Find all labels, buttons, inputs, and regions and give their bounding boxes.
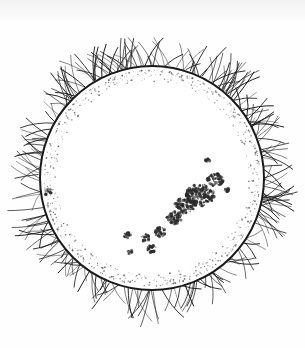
facula-dot (83, 261, 84, 262)
facula-dot (54, 223, 56, 225)
facula-dot (56, 158, 58, 160)
sunspot-dot (204, 184, 205, 185)
facula-dot (258, 185, 259, 186)
facula-dot (117, 274, 119, 276)
sunspot-dot (49, 191, 53, 195)
facula-dot (161, 71, 162, 72)
sunspot-dot (128, 231, 130, 233)
sunspot-dot (173, 222, 177, 226)
facula-dot (178, 85, 179, 86)
facula-dot (254, 144, 255, 145)
facula-dot (75, 248, 76, 249)
prominence-stroke (17, 151, 41, 170)
sunspot-dot (189, 211, 191, 213)
facula-dot (137, 278, 138, 279)
sunspot-dot (204, 187, 205, 188)
facula-dot (250, 165, 252, 167)
facula-dot (211, 91, 212, 92)
facula-dot (130, 281, 131, 282)
prominence-stroke (93, 281, 107, 298)
sunspot-dot (217, 178, 220, 181)
facula-dot (244, 224, 245, 225)
sunspot-dot (219, 175, 222, 178)
facula-dot (126, 76, 127, 77)
facula-dot (141, 70, 143, 72)
facula-dot (250, 220, 252, 222)
prominence-stroke (214, 273, 231, 282)
facula-dot (182, 80, 184, 82)
facula-dot (66, 122, 67, 123)
facula-dot (238, 220, 239, 221)
facula-dot (77, 102, 78, 103)
facula-dot (258, 158, 259, 159)
facula-dot (70, 110, 71, 111)
facula-dot (233, 116, 235, 118)
facula-dot (170, 281, 171, 282)
facula-dot (203, 83, 205, 85)
facula-dot (244, 125, 245, 126)
facula-dot (51, 157, 52, 158)
facula-dot (250, 134, 252, 136)
facula-dot (112, 79, 113, 80)
facula-dot (47, 186, 48, 187)
facula-dot (50, 195, 51, 196)
facula-dot (114, 77, 115, 78)
facula-dot (139, 70, 140, 71)
facula-dot (215, 92, 216, 93)
facula-dot (248, 226, 249, 227)
prominence-stroke (20, 123, 54, 128)
facula-dot (208, 88, 209, 89)
facula-dot (144, 72, 145, 73)
facula-dot (111, 276, 112, 277)
sunspot-dot (202, 186, 203, 187)
facula-dot (94, 259, 95, 260)
sunspot-dot (177, 221, 179, 223)
facula-dot (69, 247, 71, 249)
facula-dot (217, 260, 218, 261)
prominence-stroke (264, 165, 292, 178)
facula-dot (245, 123, 246, 124)
sunspot-dot (170, 218, 174, 222)
facula-dot (171, 284, 172, 285)
facula-dot (98, 86, 99, 87)
facula-dot (145, 277, 146, 278)
facula-dot (198, 90, 199, 91)
facula-dot (251, 215, 252, 216)
sunspot-dot (147, 238, 150, 241)
facula-dot (248, 217, 249, 218)
facula-dot (68, 110, 69, 111)
facula-dot (234, 109, 236, 111)
sunspot-dot (181, 209, 183, 211)
facula-dot (167, 282, 168, 283)
facula-dot (78, 256, 80, 258)
facula-dot (55, 150, 56, 151)
facula-dot (115, 278, 116, 279)
facula-dot (54, 208, 55, 209)
sunspot-dot (185, 204, 186, 205)
sunspot-dot (149, 245, 152, 248)
facula-dot (251, 136, 252, 137)
prominence-stroke (192, 46, 207, 72)
facula-dot (98, 94, 100, 96)
facula-dot (198, 262, 200, 264)
facula-dot (186, 78, 187, 79)
sunspot-dot (157, 234, 160, 237)
facula-dot (249, 181, 250, 182)
facula-dot (188, 82, 189, 83)
facula-dot (60, 235, 61, 236)
facula-dot (179, 76, 181, 78)
facula-dot (78, 249, 79, 250)
facula-dot (59, 205, 60, 206)
facula-dot (148, 284, 150, 286)
prominence-stroke (264, 166, 272, 181)
facula-dot (241, 235, 242, 236)
sunspot-dot (168, 214, 170, 216)
facula-dot (219, 108, 220, 109)
facula-dot (98, 91, 100, 93)
sunspot-dot (186, 201, 188, 203)
facula-dot (55, 208, 57, 210)
sunspot-dot (177, 211, 180, 214)
facula-dot (102, 267, 104, 269)
prominence-stroke (97, 285, 119, 295)
facula-dot (44, 174, 45, 175)
